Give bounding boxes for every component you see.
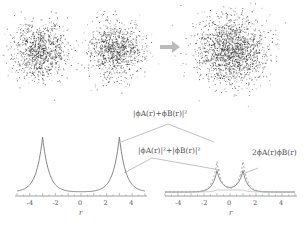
interference-curve xyxy=(165,190,295,192)
label-sum-of-squares: |ϕA(r)|²+|ϕB(r)|² xyxy=(138,146,200,155)
svg-text:-4: -4 xyxy=(175,199,181,207)
sum-squared-curve xyxy=(165,171,295,192)
svg-text:0: 0 xyxy=(78,199,82,207)
svg-text:4: 4 xyxy=(279,199,283,207)
x-axis-label: r xyxy=(229,209,233,217)
figure: -4-2024 r -4-2024 r |ϕA(r)+ϕB(r)|² |ϕA(r… xyxy=(0,0,305,227)
label-interference: 2ϕA(r)ϕB(r) xyxy=(252,148,297,157)
svg-text:2: 2 xyxy=(253,199,257,207)
label-sum-squared: |ϕA(r)+ϕB(r)|² xyxy=(133,109,187,118)
x-axis-label: r xyxy=(79,209,83,217)
svg-text:-4: -4 xyxy=(27,199,33,207)
svg-text:4: 4 xyxy=(129,199,133,207)
svg-text:2: 2 xyxy=(104,199,108,207)
svg-text:-2: -2 xyxy=(201,199,207,207)
arrow-icon xyxy=(160,41,180,53)
right-plot: -4-2024 r xyxy=(165,162,297,218)
svg-text:-2: -2 xyxy=(52,199,58,207)
svg-text:0: 0 xyxy=(227,199,231,207)
electron-clouds xyxy=(0,0,286,107)
left-curve xyxy=(17,137,145,192)
left-plot: -4-2024 r xyxy=(15,137,147,217)
